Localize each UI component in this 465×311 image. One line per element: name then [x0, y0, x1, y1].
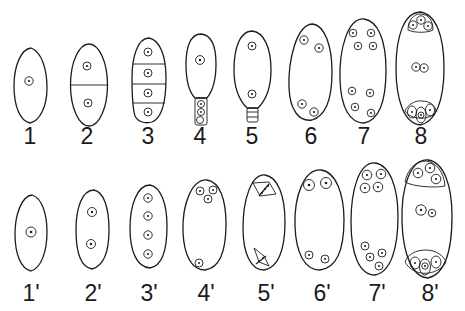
label-4-prime: 4'	[197, 280, 214, 306]
top-row-labels: 1 2 3 4 5 6 7 8	[24, 123, 428, 149]
label-5-prime: 5'	[257, 280, 274, 306]
label-4: 4	[194, 123, 207, 149]
figure-7	[340, 19, 386, 123]
figure-8	[396, 12, 444, 125]
label-7: 7	[358, 123, 371, 149]
figure-7-prime	[351, 163, 398, 275]
label-8: 8	[415, 123, 428, 149]
label-7-prime: 7'	[368, 280, 385, 306]
figure-4-prime	[183, 180, 226, 270]
label-6: 6	[305, 123, 318, 149]
label-1: 1	[24, 123, 37, 149]
figure-8-prime	[402, 160, 452, 278]
figure-2	[71, 44, 108, 126]
figure-4	[186, 34, 216, 125]
label-8-prime: 8'	[421, 280, 438, 306]
figure-6-prime	[295, 170, 344, 270]
label-6-prime: 6'	[313, 280, 330, 306]
label-2: 2	[81, 123, 94, 149]
figure-2-prime	[76, 190, 109, 269]
spindle-lower	[254, 248, 269, 266]
figure-1	[14, 48, 47, 123]
label-3: 3	[142, 123, 155, 149]
label-3-prime: 3'	[140, 280, 157, 306]
spindle-upper	[253, 182, 276, 196]
figure-3-prime	[130, 185, 167, 268]
figure-6	[289, 24, 332, 120]
figure-5	[234, 31, 271, 122]
label-5: 5	[246, 123, 259, 149]
figure-1-prime	[15, 195, 47, 271]
bottom-row-labels: 1' 2' 3' 4' 5' 6' 7' 8'	[22, 280, 438, 306]
embryo-sac-development-diagram: 1 2 3 4 5 6 7 8	[0, 0, 465, 311]
figure-3	[132, 38, 166, 123]
label-1-prime: 1'	[22, 280, 39, 306]
figure-5-prime	[243, 175, 285, 270]
label-2-prime: 2'	[84, 280, 101, 306]
